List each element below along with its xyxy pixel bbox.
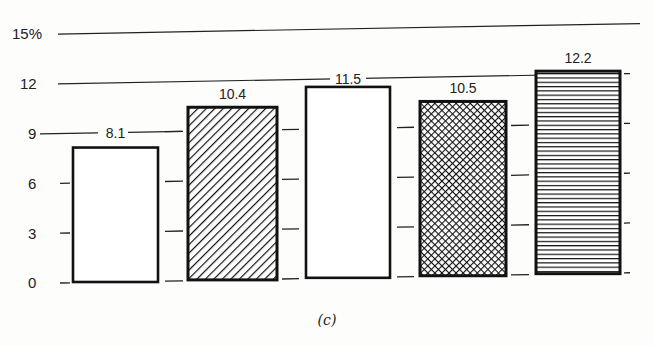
bar-5: 12.2 <box>536 50 620 274</box>
y-tick-label: 3 <box>28 225 36 242</box>
bar-1: 8.1 <box>73 125 158 282</box>
value-label: 8.1 <box>106 125 126 141</box>
y-tick-label: 6 <box>28 175 36 192</box>
value-label: 10.5 <box>449 80 476 96</box>
bar-3: 11.5 <box>306 71 390 278</box>
y-tick-label: 15% <box>12 25 42 42</box>
figure-caption: (c) <box>0 312 654 328</box>
value-label: 10.4 <box>219 86 246 102</box>
gridline <box>58 24 640 34</box>
y-tick-label: 12 <box>20 75 37 92</box>
gridline <box>40 133 98 134</box>
bar-4: 10.5 <box>420 80 506 275</box>
bar-chart: 03691215% 8.110.411.510.512.2 <box>0 0 654 346</box>
bars: 8.110.411.510.512.2 <box>73 50 620 282</box>
value-label: 12.2 <box>564 50 591 66</box>
y-tick-label: 9 <box>28 125 36 142</box>
y-tick-label: 0 <box>28 274 36 291</box>
value-label: 11.5 <box>335 71 361 87</box>
bar-2: 10.4 <box>188 86 277 280</box>
